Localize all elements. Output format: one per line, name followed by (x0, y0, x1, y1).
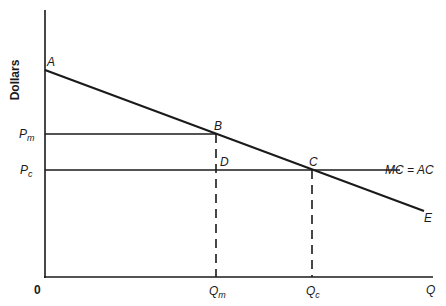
qc-label-main: Q (306, 284, 315, 298)
pm-label-sub: m (27, 133, 35, 143)
point-d-label: D (220, 155, 229, 169)
pc-label-sub: c (28, 169, 33, 179)
qm-label-main: Q (209, 284, 218, 298)
qc-label-sub: c (315, 290, 320, 300)
point-c-label: C (309, 155, 318, 169)
mc-ac-label: MC = AC (385, 163, 434, 177)
diagram-canvas: Dollars A B D C E MC = AC Pm Pc 0 Qm Qc … (0, 0, 446, 306)
pc-label: Pc (20, 163, 33, 179)
pm-label: Pm (19, 127, 35, 143)
point-a-label: A (46, 55, 55, 69)
origin-label: 0 (34, 283, 41, 297)
point-b-label: B (214, 119, 222, 133)
y-axis-label: Dollars (8, 59, 22, 100)
demand-curve (45, 70, 424, 211)
point-e-label: E (424, 211, 433, 225)
qm-label-sub: m (218, 290, 226, 300)
qc-label: Qc (306, 284, 320, 300)
x-axis-label: Q (426, 283, 435, 297)
pc-label-main: P (20, 163, 28, 177)
qm-label: Qm (209, 284, 226, 300)
pm-label-main: P (19, 127, 27, 141)
